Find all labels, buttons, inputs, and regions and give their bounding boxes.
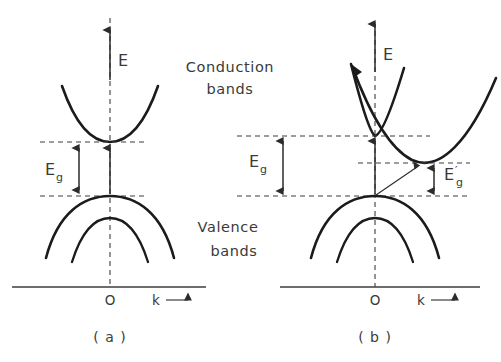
panel-b-gap2-subscript: g [456,176,463,189]
panel-b-conduction-band-direct [351,64,404,136]
panel-b-caption: ( b ) [358,329,392,345]
panel-b-gap-subscript: g [260,163,267,176]
panel-b-conduction-band-indirect [352,66,496,163]
valence-bands-label-line2: bands [210,243,257,259]
panel-a: E E g O k [12,18,206,345]
panel-a-k-label: k [152,292,160,308]
panel-b: E E g E ′ [237,22,496,345]
panel-b-gap2-label: E [444,165,454,184]
panel-a-gap-subscript: g [56,171,63,184]
conduction-bands-label-line2: bands [206,81,253,97]
panel-b-indirect-transition-arrow [376,167,417,195]
conduction-bands-label-line1: Conduction [186,59,274,75]
panel-b-k-label: k [417,292,425,308]
panel-b-gap-label: E [249,152,259,171]
panel-b-origin-label: O [370,292,381,308]
valence-bands-label-line1: Valence [198,219,259,235]
panel-a-caption: ( a ) [93,329,126,345]
band-structure-figure: Conduction bands Valence bands E E [0,0,501,362]
band-structure-svg: Conduction bands Valence bands E E [0,0,501,362]
panel-a-energy-axis-label: E [118,51,128,70]
panel-b-energy-axis-label: E [383,45,393,64]
panel-a-gap-label: E [45,160,55,179]
center-labels: Conduction bands Valence bands [186,59,274,259]
panel-a-origin-label: O [105,292,116,308]
